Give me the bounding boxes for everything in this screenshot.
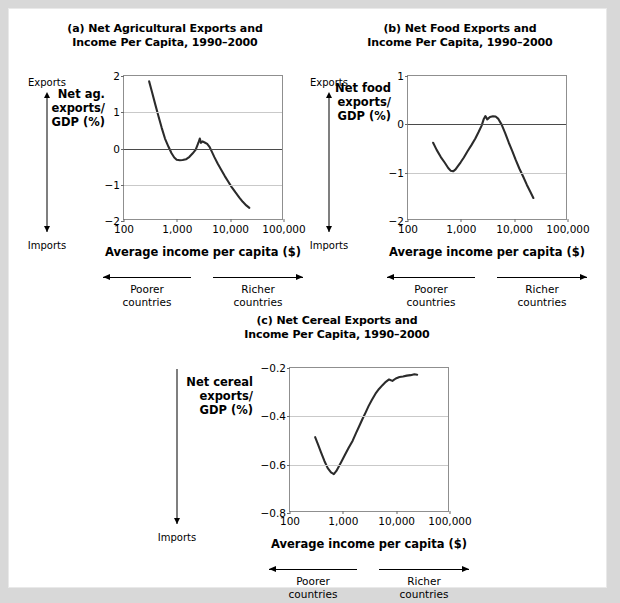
- chart-a-x-tick-label: 10,000: [212, 223, 249, 235]
- chart-a: (a) Net Agricultural Exports and Income …: [19, 22, 299, 307]
- chart-a-richer-line2: countries: [213, 296, 303, 309]
- chart-a-plot-area: 210−1−21001,00010,000100,000: [123, 75, 283, 220]
- chart-a-richer-line1: Richer: [213, 283, 303, 296]
- chart-a-poorer-line1: Poorer: [103, 283, 191, 296]
- chart-c-y-axis-label-line2: exports/: [149, 389, 253, 403]
- chart-c-imports-label: Imports: [149, 532, 205, 543]
- chart-c-x-tick-label: 100: [280, 515, 300, 527]
- chart-c-y-tick-label: −0.6: [261, 459, 287, 471]
- chart-b-gridline: [408, 173, 566, 174]
- chart-b-gridline: [408, 124, 566, 125]
- chart-a-y-tick-mark: [121, 185, 124, 186]
- chart-b-richer-arrow-head: [580, 274, 587, 280]
- chart-c-poorer-line1: Poorer: [269, 575, 357, 588]
- chart-c-richer-line2: countries: [379, 588, 469, 601]
- chart-a-imports-label: Imports: [19, 240, 75, 251]
- chart-b-richer-arrow: [497, 277, 587, 278]
- chart-a-poorer-label: Poorer countries: [103, 283, 191, 308]
- chart-a-gridline: [124, 112, 282, 113]
- chart-b-poorer-line1: Poorer: [387, 283, 475, 296]
- chart-a-x-tick-mark: [124, 219, 125, 222]
- chart-c-gridline: [290, 465, 448, 466]
- chart-a-poorer-line2: countries: [103, 296, 191, 309]
- chart-c-y-axis-label-line1: Net cereal: [149, 375, 253, 389]
- chart-b-title-line1: (b) Net Food Exports and: [323, 22, 597, 36]
- chart-a-y-axis-label-line2: exports/: [19, 101, 105, 115]
- chart-b-x-tick-mark: [461, 219, 462, 222]
- chart-c-title-line2: Income Per Capita, 1990–2000: [195, 328, 479, 342]
- chart-c-x-tick-label: 1,000: [328, 515, 358, 527]
- chart-c-y-tick-label: −0.4: [261, 410, 287, 422]
- chart-a-y-axis-label-line3: GDP (%): [19, 115, 105, 129]
- chart-b-x-tick-label: 1,000: [446, 223, 476, 235]
- chart-c-body: Imports Net cereal exports/ GDP (%) −0.2…: [149, 341, 479, 581]
- chart-c-x-axis-label: Average income per capita ($): [239, 537, 499, 551]
- chart-a-y-axis-label: Net ag. exports/ GDP (%): [19, 87, 105, 129]
- chart-a-body: Exports Imports Net ag. exports/ GDP (%)…: [19, 49, 299, 289]
- chart-a-y-axis-label-line1: Net ag.: [19, 87, 105, 101]
- chart-a-x-axis-label: Average income per capita ($): [73, 245, 333, 259]
- chart-a-y-tick-label: 0: [113, 143, 120, 155]
- chart-c-richer-label: Richer countries: [379, 575, 469, 600]
- chart-b-poorer-line2: countries: [387, 296, 475, 309]
- chart-a-gridline: [124, 149, 282, 150]
- chart-c-x-tick-mark: [290, 511, 291, 514]
- chart-a-richer-label: Richer countries: [213, 283, 303, 308]
- chart-b-x-tick-label: 100: [398, 223, 418, 235]
- chart-b-x-axis-label: Average income per capita ($): [357, 245, 617, 259]
- chart-a-gridline: [124, 185, 282, 186]
- chart-c-x-tick-mark: [450, 511, 451, 514]
- chart-b-poorer-arrow: [387, 277, 475, 278]
- chart-b-richer-label: Richer countries: [497, 283, 587, 308]
- chart-b-x-tick-mark: [514, 219, 515, 222]
- chart-b-y-tick-label: 1: [397, 70, 404, 82]
- chart-b-poorer-arrow-head: [387, 274, 394, 280]
- chart-b-y-tick-mark: [405, 76, 408, 77]
- chart-a-x-tick-mark: [284, 219, 285, 222]
- chart-c-y-axis-label-line3: GDP (%): [149, 403, 253, 417]
- chart-c-y-tick-label: −0.2: [261, 362, 287, 374]
- chart-a-y-tick-mark: [121, 149, 124, 150]
- chart-a-y-tick-label: 1: [113, 106, 120, 118]
- chart-a-title: (a) Net Agricultural Exports and Income …: [31, 22, 299, 49]
- chart-c-x-tick-label: 10,000: [378, 515, 415, 527]
- chart-b-curve: [408, 76, 566, 219]
- chart-b-range-row: Poorer countries Richer countries: [387, 277, 587, 311]
- chart-c-richer-arrow-head: [462, 566, 469, 572]
- chart-b-poorer-label: Poorer countries: [387, 283, 475, 308]
- chart-b-x-tick-mark: [568, 219, 569, 222]
- chart-a-curve: [124, 76, 282, 219]
- chart-c-y-axis-label: Net cereal exports/ GDP (%): [149, 375, 253, 417]
- chart-b-x-tick-label: 10,000: [496, 223, 533, 235]
- chart-a-title-line1: (a) Net Agricultural Exports and: [31, 22, 299, 36]
- chart-c-y-tick-mark: [287, 465, 290, 466]
- chart-b-body: Exports Imports Net food exports/ GDP (%…: [297, 49, 597, 289]
- chart-c-richer-arrow: [379, 569, 469, 570]
- chart-a-range-row: Poorer countries Richer countries: [103, 277, 303, 311]
- chart-a-x-tick-label: 1,000: [162, 223, 192, 235]
- chart-b-richer-line1: Richer: [497, 283, 587, 296]
- chart-a-x-tick-mark: [230, 219, 231, 222]
- chart-c-poorer-arrow-head: [269, 566, 276, 572]
- chart-a-y-tick-mark: [121, 112, 124, 113]
- chart-b-y-axis-label-line3: GDP (%): [303, 109, 391, 123]
- chart-b-imports-label: Imports: [301, 240, 357, 251]
- chart-c-gridline: [290, 416, 448, 417]
- chart-a-poorer-arrow-head: [103, 274, 110, 280]
- chart-c-x-tick-mark: [343, 511, 344, 514]
- chart-c-arrow-down-head: [174, 518, 180, 524]
- chart-c-range-row: Poorer countries Richer countries: [269, 569, 469, 603]
- chart-b-y-tick-label: 0: [397, 118, 404, 130]
- chart-c-curve: [290, 368, 448, 511]
- chart-b-richer-line2: countries: [497, 296, 587, 309]
- chart-b-title: (b) Net Food Exports and Income Per Capi…: [323, 22, 597, 49]
- chart-c-title-line1: (c) Net Cereal Exports and: [195, 314, 479, 328]
- chart-c-poorer-line2: countries: [269, 588, 357, 601]
- chart-b-arrow-down-head: [326, 226, 332, 232]
- chart-b-y-tick-mark: [405, 173, 408, 174]
- chart-c-title: (c) Net Cereal Exports and Income Per Ca…: [195, 314, 479, 341]
- chart-a-x-tick-mark: [177, 219, 178, 222]
- chart-b: (b) Net Food Exports and Income Per Capi…: [297, 22, 597, 307]
- chart-c-richer-line1: Richer: [379, 575, 469, 588]
- chart-c-plot-area: −0.2−0.4−0.6−0.81001,00010,000100,000: [289, 367, 449, 512]
